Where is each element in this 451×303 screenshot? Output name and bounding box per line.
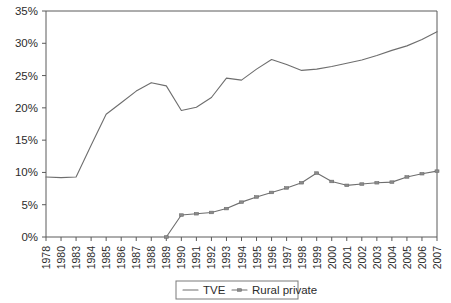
data-point-marker [194, 212, 198, 215]
data-point-marker [420, 172, 424, 175]
x-axis-labels: 1978198019831984198519861987198819891990… [40, 246, 443, 270]
data-point-marker [345, 184, 349, 187]
x-axis-ticks [46, 237, 437, 241]
x-tick-label: 1995 [251, 246, 263, 270]
x-tick-label: 2005 [401, 246, 413, 270]
x-tick-label: 1997 [281, 246, 293, 270]
x-tick-label: 1987 [130, 246, 142, 270]
data-point-marker [285, 187, 289, 190]
line-chart: 0%5%10%15%20%25%30%35% 19781980198319841… [0, 0, 451, 303]
x-tick-label: 2004 [386, 246, 398, 270]
chart-container: 0%5%10%15%20%25%30%35% 19781980198319841… [0, 0, 451, 303]
x-tick-label: 1990 [175, 246, 187, 270]
legend-label-tve: TVE [203, 284, 226, 296]
x-tick-label: 2002 [356, 246, 368, 270]
data-point-marker [375, 181, 379, 184]
y-tick-label: 10% [15, 166, 38, 178]
x-tick-label: 1983 [70, 246, 82, 270]
x-tick-label: 1992 [205, 246, 217, 270]
x-tick-label: 2001 [341, 246, 353, 270]
x-tick-label: 1978 [40, 246, 52, 270]
data-point-marker [240, 201, 244, 204]
data-point-marker [300, 181, 304, 184]
y-axis-labels: 0%5%10%15%20%25%30%35% [15, 5, 38, 243]
data-point-marker [270, 191, 274, 194]
data-point-marker [255, 196, 259, 199]
data-point-marker [315, 172, 319, 175]
y-tick-label: 25% [15, 70, 38, 82]
y-tick-label: 30% [15, 37, 38, 49]
x-tick-label: 1998 [296, 246, 308, 270]
y-tick-label: 5% [21, 199, 38, 211]
x-tick-label: 1980 [55, 246, 67, 270]
x-tick-label: 1986 [115, 246, 127, 270]
x-tick-label: 1994 [236, 246, 248, 270]
x-tick-label: 2003 [371, 246, 383, 270]
legend-marker-rural-private [238, 289, 242, 292]
x-tick-label: 2006 [416, 246, 428, 270]
x-tick-label: 1988 [145, 246, 157, 270]
x-tick-label: 1999 [311, 246, 323, 270]
y-tick-label: 0% [21, 231, 38, 243]
y-tick-label: 20% [15, 102, 38, 114]
data-point-marker [360, 183, 364, 186]
y-axis-ticks [42, 11, 46, 237]
series-line-tve [46, 32, 437, 178]
x-tick-label: 2000 [326, 246, 338, 270]
data-point-marker [330, 180, 334, 183]
x-tick-label: 2007 [431, 246, 443, 270]
data-point-marker [209, 211, 213, 214]
x-tick-label: 1996 [266, 246, 278, 270]
data-point-marker [164, 236, 168, 239]
x-tick-label: 1993 [220, 246, 232, 270]
data-point-marker [405, 176, 409, 179]
x-tick-label: 1985 [100, 246, 112, 270]
x-tick-label: 1989 [160, 246, 172, 270]
x-tick-label: 1991 [190, 246, 202, 270]
data-point-marker [224, 207, 228, 210]
data-point-marker [390, 181, 394, 184]
legend-label-rural-private: Rural private [252, 284, 317, 296]
y-tick-label: 35% [15, 5, 38, 17]
x-tick-label: 1984 [85, 246, 97, 270]
y-tick-label: 15% [15, 134, 38, 146]
data-point-marker [179, 214, 183, 217]
data-point-marker [435, 170, 439, 173]
chart-legend: TVERural private [176, 281, 317, 299]
series-line-rural-private [166, 171, 437, 237]
